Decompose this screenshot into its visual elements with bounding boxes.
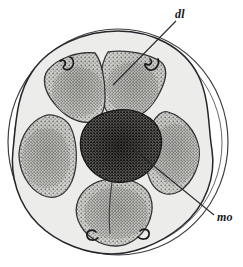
label-dl: dl [175, 8, 185, 20]
label-mo: mo [217, 211, 233, 223]
anatomical-cross-section-figure [0, 0, 243, 267]
